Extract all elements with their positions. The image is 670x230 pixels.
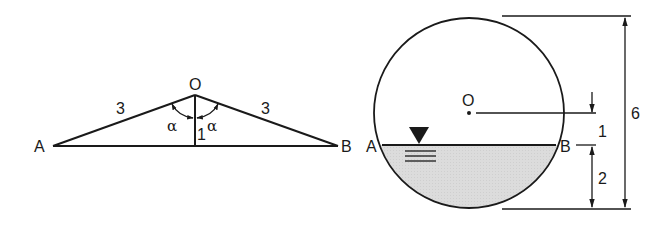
label-dim-2: 2 (598, 170, 607, 187)
label-apex-o: O (189, 76, 201, 93)
label-dim-6: 6 (631, 105, 640, 122)
label-chord-a: A (366, 138, 377, 155)
label-side-left: 3 (116, 100, 125, 117)
label-angle-right: α (207, 117, 217, 135)
label-height: 1 (197, 126, 206, 143)
angle-arc-left (172, 104, 193, 118)
label-center-o: O (462, 92, 474, 109)
tank-figure: O A B 1 2 6 (366, 16, 640, 215)
water-level-icon (409, 127, 429, 144)
label-point-a: A (34, 138, 45, 155)
water-region (370, 145, 570, 215)
label-point-b: B (341, 138, 352, 155)
angle-arc-right (197, 104, 218, 118)
label-side-right: 3 (261, 100, 270, 117)
diagram-canvas: O A B 3 3 1 α α O A B 1 (0, 0, 670, 230)
label-chord-b: B (560, 138, 571, 155)
center-dot (467, 111, 471, 115)
triangle-figure: O A B 3 3 1 α α (34, 76, 352, 155)
label-angle-left: α (167, 117, 177, 135)
label-dim-1: 1 (598, 123, 607, 140)
